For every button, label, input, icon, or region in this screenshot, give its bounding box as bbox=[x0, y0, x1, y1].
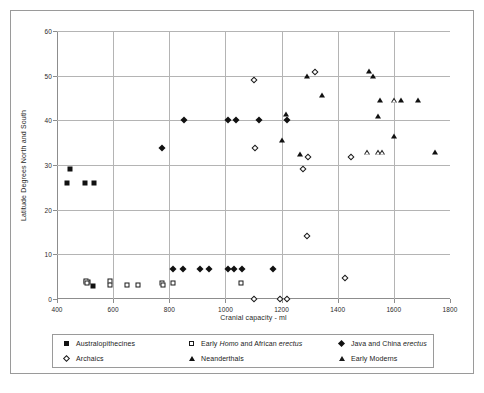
legend-label: Early Moderns bbox=[351, 355, 397, 362]
open-diamond-icon bbox=[63, 355, 70, 362]
y-tick-mark bbox=[53, 165, 57, 166]
y-axis-title-text: Latitude Degrees North and South bbox=[21, 109, 28, 220]
gridline-horizontal bbox=[57, 76, 450, 77]
x-tick-label: 600 bbox=[108, 306, 119, 313]
y-tick-label: 0 bbox=[48, 296, 52, 303]
gridline-horizontal bbox=[57, 210, 450, 211]
gridline-vertical bbox=[282, 31, 283, 299]
x-tick-mark bbox=[282, 299, 283, 303]
y-tick-mark bbox=[53, 31, 57, 32]
gridline-horizontal bbox=[57, 165, 450, 166]
legend-label: Java and China erectus bbox=[351, 340, 427, 347]
plot-area: 0102030405060400600800100012001400160018… bbox=[57, 31, 450, 299]
open-triangle-icon bbox=[338, 355, 345, 362]
legend-item-australopithecines[interactable]: Australopithecines bbox=[63, 340, 188, 347]
y-axis-title: Latitude Degrees North and South bbox=[18, 31, 30, 299]
legend-item-early-homo-african-erectus[interactable]: Early Homo and African erectus bbox=[188, 340, 338, 347]
x-tick-mark bbox=[394, 299, 395, 303]
y-tick-label: 50 bbox=[45, 72, 52, 79]
legend-item-java-china-erectus[interactable]: Java and China erectus bbox=[338, 340, 445, 347]
chart-legend: AustralopithecinesEarly Homo and African… bbox=[52, 334, 434, 368]
x-tick-mark bbox=[169, 299, 170, 303]
gridline-vertical bbox=[169, 31, 170, 299]
filled-triangle-icon bbox=[188, 355, 195, 362]
legend-item-archaics[interactable]: Archaics bbox=[63, 355, 188, 362]
gridline-horizontal bbox=[57, 31, 450, 32]
y-tick-mark bbox=[53, 120, 57, 121]
y-tick-mark bbox=[53, 210, 57, 211]
x-tick-label: 1600 bbox=[386, 306, 401, 313]
x-tick-label: 1800 bbox=[443, 306, 458, 313]
y-tick-label: 40 bbox=[45, 117, 52, 124]
y-tick-label: 10 bbox=[45, 251, 52, 258]
y-tick-label: 60 bbox=[45, 28, 52, 35]
filled-square-icon bbox=[63, 340, 70, 347]
legend-item-early-moderns[interactable]: Early Moderns bbox=[338, 355, 445, 362]
legend-item-neanderthals[interactable]: Neanderthals bbox=[188, 355, 338, 362]
gridline-vertical bbox=[338, 31, 339, 299]
gridline-vertical bbox=[113, 31, 114, 299]
gridline-vertical bbox=[394, 31, 395, 299]
x-tick-mark bbox=[113, 299, 114, 303]
legend-label: Archaics bbox=[76, 355, 104, 362]
y-tick-label: 20 bbox=[45, 206, 52, 213]
gridline-horizontal bbox=[57, 254, 450, 255]
x-tick-mark bbox=[225, 299, 226, 303]
x-tick-mark bbox=[338, 299, 339, 303]
filled-diamond-icon bbox=[338, 340, 345, 347]
x-tick-label: 400 bbox=[51, 306, 62, 313]
open-square-icon bbox=[188, 340, 195, 347]
x-tick-mark bbox=[450, 299, 451, 303]
x-tick-label: 1200 bbox=[274, 306, 289, 313]
chart-figure: Latitude Degrees North and South 0102030… bbox=[0, 0, 484, 393]
x-tick-label: 1000 bbox=[218, 306, 233, 313]
y-tick-mark bbox=[53, 254, 57, 255]
x-tick-label: 800 bbox=[164, 306, 175, 313]
x-tick-label: 1400 bbox=[330, 306, 345, 313]
gridline-horizontal bbox=[57, 120, 450, 121]
legend-label: Australopithecines bbox=[76, 340, 135, 347]
legend-label: Early Homo and African erectus bbox=[201, 340, 302, 347]
legend-label: Neanderthals bbox=[201, 355, 244, 362]
gridline-vertical bbox=[225, 31, 226, 299]
x-tick-mark bbox=[57, 299, 58, 303]
x-axis-title: Cranial capacity - ml bbox=[57, 314, 450, 321]
y-tick-label: 30 bbox=[45, 162, 52, 169]
y-tick-mark bbox=[53, 76, 57, 77]
